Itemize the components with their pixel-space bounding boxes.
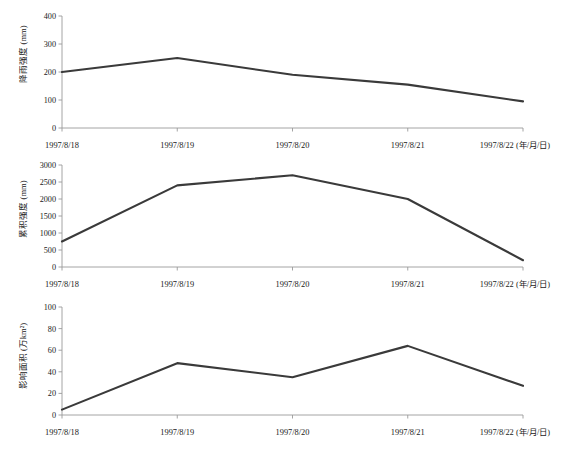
- plot-area-panel-2: 0500100015002000250030001997/8/181997/8/…: [0, 155, 561, 295]
- x-tick-label: 1997/8/22 (年/月/日): [480, 140, 551, 150]
- y-tick-label: 200: [44, 68, 56, 77]
- plot-area-panel-3: 0204060801001997/8/181997/8/191997/8/201…: [0, 295, 561, 457]
- x-tick-label: 1997/8/18: [45, 428, 79, 437]
- y-tick-label: 500: [44, 246, 56, 255]
- y-tick-label: 1000: [40, 229, 56, 238]
- data-series-line: [62, 346, 523, 410]
- x-tick-label: 1997/8/21: [391, 141, 425, 150]
- y-tick-label: 1500: [40, 212, 56, 221]
- y-axis-title-panel-1: 降雨强度 (mm): [16, 0, 28, 114]
- chart-panel-cumulative-intensity: 累积强度 (mm) 0500100015002000250030001997/8…: [0, 155, 561, 295]
- chart-panel-rain-intensity: 降雨强度 (mm) 01002003004001997/8/181997/8/1…: [0, 0, 561, 155]
- y-tick-label: 2500: [40, 178, 56, 187]
- y-tick-label: 0: [52, 411, 56, 420]
- x-tick-label: 1997/8/20: [276, 280, 310, 289]
- x-tick-label: 1997/8/19: [160, 141, 194, 150]
- y-tick-label: 40: [48, 368, 56, 377]
- y-tick-label: 0: [52, 263, 56, 272]
- chart-panel-affected-area: 影响面积 (万km²) 0204060801001997/8/181997/8/…: [0, 295, 561, 457]
- y-tick-label: 80: [48, 325, 56, 334]
- y-tick-label: 100: [44, 303, 56, 312]
- y-tick-label: 60: [48, 346, 56, 355]
- x-tick-label: 1997/8/18: [45, 280, 79, 289]
- data-series-line: [62, 175, 523, 260]
- x-tick-label: 1997/8/22 (年/月/日): [480, 427, 551, 437]
- x-tick-label: 1997/8/21: [391, 428, 425, 437]
- y-axis-title-panel-2: 累积强度 (mm): [16, 149, 28, 269]
- plot-area-panel-1: 01002003004001997/8/181997/8/191997/8/20…: [0, 0, 561, 155]
- y-tick-label: 20: [48, 389, 56, 398]
- x-tick-label: 1997/8/21: [391, 280, 425, 289]
- x-tick-label: 1997/8/19: [160, 428, 194, 437]
- x-tick-label: 1997/8/20: [276, 141, 310, 150]
- y-tick-label: 400: [44, 12, 56, 21]
- figure-root: 降雨强度 (mm) 01002003004001997/8/181997/8/1…: [0, 0, 561, 457]
- y-tick-label: 300: [44, 40, 56, 49]
- y-tick-label: 0: [52, 124, 56, 133]
- y-tick-label: 100: [44, 96, 56, 105]
- y-axis-title-panel-3: 影响面积 (万km²): [16, 296, 28, 416]
- y-tick-label: 3000: [40, 161, 56, 170]
- x-tick-label: 1997/8/19: [160, 280, 194, 289]
- y-tick-label: 2000: [40, 195, 56, 204]
- x-tick-label: 1997/8/18: [45, 141, 79, 150]
- data-series-line: [62, 58, 523, 101]
- x-tick-label: 1997/8/22 (年/月/日): [480, 279, 551, 289]
- x-tick-label: 1997/8/20: [276, 428, 310, 437]
